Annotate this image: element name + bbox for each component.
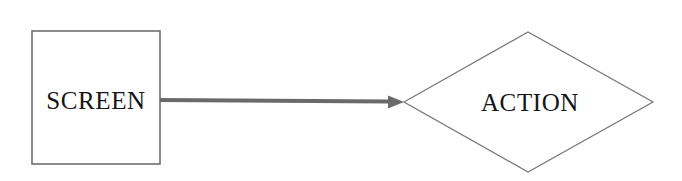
connector-screen-to-action[interactable] <box>160 96 404 109</box>
node-screen[interactable]: SCREEN <box>32 31 160 164</box>
flow-diagram-svg: SCREEN ACTION <box>0 0 682 181</box>
connector-arrowhead-icon <box>388 96 404 109</box>
screen-node-label: SCREEN <box>46 87 145 114</box>
connector-line <box>160 100 389 102</box>
node-action[interactable]: ACTION <box>404 32 653 172</box>
action-node-label: ACTION <box>481 89 579 116</box>
flow-diagram-canvas: SCREEN ACTION <box>0 0 682 181</box>
